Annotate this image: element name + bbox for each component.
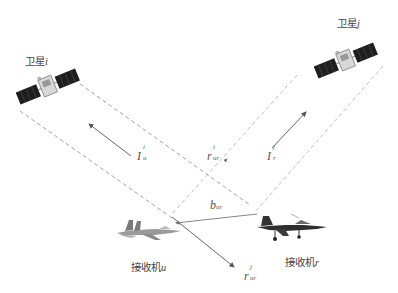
sat-j-signal-lower — [255, 66, 383, 212]
receiver-u-label-cn: 接收机 — [131, 261, 161, 273]
I-r-arrow — [272, 112, 306, 148]
I-r-sup: j — [273, 144, 275, 151]
receiver-u-label-var: u — [161, 262, 166, 273]
satellite-j-icon — [314, 40, 378, 82]
r-ur-i-tick — [225, 159, 227, 161]
r-ur-i-base: r — [207, 149, 212, 163]
I-u-base: I — [137, 149, 141, 163]
I-u-sub: u — [143, 155, 147, 162]
sat-i-signal-lower — [20, 111, 172, 218]
I-u-arrow — [89, 124, 131, 156]
I-r-sub: r — [273, 155, 276, 162]
receiver-u-label: 接收机u — [131, 262, 166, 274]
r-ur-i-sub: ur — [213, 155, 219, 162]
r-ur-i-label: riur — [207, 150, 212, 162]
satellite-i-icon — [16, 66, 80, 108]
receiver-r-label-var: r — [315, 257, 319, 268]
r-ur-j-base: r — [244, 269, 249, 283]
r-ur-i-sup: i — [213, 144, 215, 151]
I-u-sup: i — [143, 144, 145, 151]
I-r-label: Ijr — [267, 150, 271, 162]
r-ur-j-sup: j — [250, 264, 252, 271]
satellite-j-label-cn: 卫星 — [337, 17, 357, 29]
aircraft-r-icon — [255, 214, 327, 244]
sat-j-signal-upper — [172, 75, 297, 214]
r-ur-j-label: rjur — [244, 270, 249, 282]
aircraft-u-icon — [115, 218, 183, 244]
receiver-r-label: 接收机r — [285, 257, 319, 269]
b-ur-baseline — [176, 214, 257, 223]
I-r-base: I — [267, 149, 271, 163]
satellite-i-label-var: i — [45, 56, 48, 67]
satellite-i-label: 卫星i — [25, 56, 48, 68]
satellite-j-label: 卫星j — [337, 18, 360, 30]
b-ur-label: bur — [210, 199, 216, 211]
b-ur-sub: ur — [216, 204, 222, 211]
sat-i-signal-upper — [80, 84, 250, 205]
satellite-j-label-var: j — [357, 18, 360, 29]
satellite-i-label-cn: 卫星 — [25, 55, 45, 67]
r-ur-j-sub: ur — [250, 275, 256, 282]
receiver-r-label-cn: 接收机 — [285, 256, 315, 268]
diagram-canvas: 卫星i 卫星j 接收机u — [0, 0, 398, 293]
I-u-label: Iiu — [137, 150, 141, 162]
